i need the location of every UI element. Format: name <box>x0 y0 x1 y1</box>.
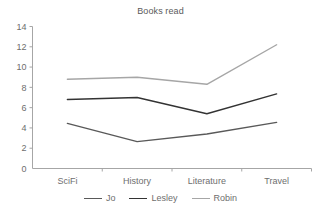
chart-legend: JoLesleyRobin <box>0 194 321 203</box>
y-axis-tick-label: 4 <box>21 123 26 133</box>
legend-swatch-icon <box>84 198 102 199</box>
legend-label: Lesley <box>151 194 177 203</box>
line-chart-figure: Books read 02468101214 SciFiHistoryLiter… <box>0 0 321 215</box>
legend-item-jo[interactable]: Jo <box>84 194 116 203</box>
series-line-jo <box>67 122 276 141</box>
legend-label: Jo <box>106 194 116 203</box>
chart-plot-area: 02468101214 SciFiHistoryLiteratureTravel <box>0 0 321 215</box>
y-axis-tick-label: 0 <box>21 164 26 174</box>
series-line-lesley <box>67 94 276 114</box>
y-axis-tick-label: 2 <box>21 143 26 153</box>
x-axis-tick-label: SciFi <box>57 176 77 186</box>
y-axis: 02468101214 <box>16 22 32 174</box>
x-axis: SciFiHistoryLiteratureTravel <box>33 169 312 186</box>
y-axis-tick-label: 12 <box>16 42 26 52</box>
legend-item-robin[interactable]: Robin <box>192 194 238 203</box>
x-axis-tick-label: History <box>123 176 152 186</box>
y-axis-tick-label: 14 <box>16 22 26 32</box>
legend-item-lesley[interactable]: Lesley <box>129 194 177 203</box>
series-lines <box>67 45 276 142</box>
series-line-robin <box>67 45 276 85</box>
y-axis-tick-label: 6 <box>21 103 26 113</box>
y-axis-tick-label: 10 <box>16 62 26 72</box>
legend-swatch-icon <box>129 198 147 199</box>
y-axis-tick-label: 8 <box>21 83 26 93</box>
legend-label: Robin <box>214 194 238 203</box>
legend-swatch-icon <box>192 198 210 199</box>
x-axis-tick-label: Travel <box>264 176 289 186</box>
x-axis-tick-label: Literature <box>188 176 226 186</box>
